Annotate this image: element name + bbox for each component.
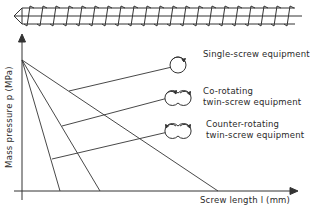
single-screw-cross-section-icon	[170, 57, 186, 73]
leader-lines	[52, 67, 172, 159]
legend-co-label-line1: Co-rotating	[203, 86, 253, 96]
x-axis-label: Screw length l (mm)	[200, 195, 290, 205]
pressure-line-counter	[22, 60, 60, 191]
legend-counter-label-line2: twin-screw equipment	[206, 130, 304, 140]
legend-co-label-line2: twin-screw equipment	[203, 97, 301, 107]
legend-counter-label-line1: Counter-rotating	[206, 119, 279, 129]
extruder-screw-icon	[14, 6, 302, 26]
legend-single-label: Single-screw equipment	[203, 49, 310, 59]
co-rotating-twin-screw-icon	[165, 91, 191, 106]
pressure-line-co	[22, 60, 100, 191]
x-axis	[14, 188, 298, 195]
y-axis-label: Mass pressure p (MPa)	[4, 66, 14, 168]
y-axis	[19, 34, 26, 200]
counter-rotating-twin-screw-icon	[165, 124, 191, 139]
